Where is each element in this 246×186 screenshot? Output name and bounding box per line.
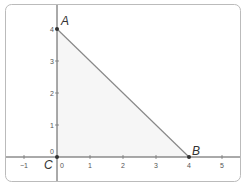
x-tick-label: 0 — [60, 162, 64, 169]
y-tick-label: 1 — [50, 122, 54, 129]
x-tick-label: 1 — [88, 162, 92, 169]
x-tick-label: 4 — [187, 162, 191, 169]
x-tick-label: −1 — [20, 162, 28, 169]
y-tick-label: 3 — [50, 58, 54, 65]
x-tick-label: 5 — [220, 162, 224, 169]
point-b — [187, 155, 191, 159]
point-c-label: C — [44, 158, 53, 172]
point-c — [55, 155, 59, 159]
point-a — [55, 27, 59, 31]
coordinate-plane: −1 0 1 2 3 4 5 0 1 2 3 4 A B C — [0, 0, 246, 186]
point-a-label: A — [60, 14, 69, 28]
x-tick-label: 3 — [154, 162, 158, 169]
y-tick-label: 4 — [50, 26, 54, 33]
point-b-label: B — [192, 144, 200, 158]
y-tick-label: 0 — [50, 148, 54, 155]
x-tick-label: 2 — [121, 162, 125, 169]
y-tick-label: 2 — [50, 90, 54, 97]
